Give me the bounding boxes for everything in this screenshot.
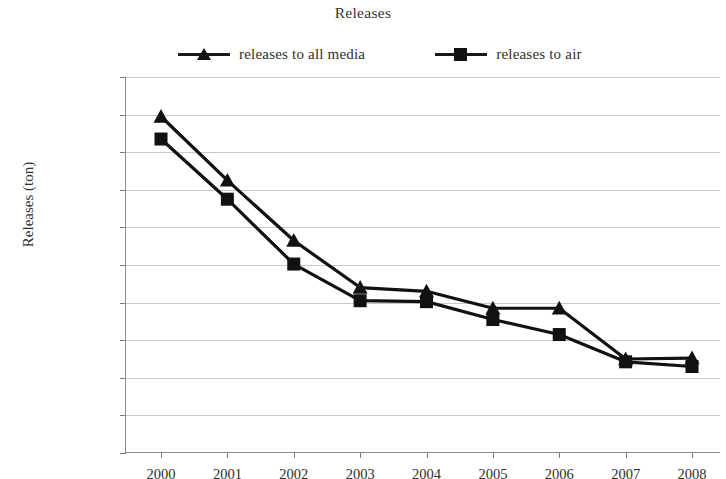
x-tick-label: 2008 [652, 466, 726, 479]
y-tick-mark [120, 453, 126, 454]
legend-item-releases-to-air: releases to air [435, 42, 581, 66]
legend-item-releases-to-all-media: releases to all media [178, 42, 365, 66]
series-releases-to-all-media [154, 109, 700, 365]
data-point-square [155, 133, 168, 146]
data-point-square [486, 313, 499, 326]
legend-label-0: releases to all media [239, 46, 365, 63]
triangle-marker-icon [197, 48, 211, 60]
data-point-square [354, 294, 367, 307]
legend-swatch-triangle [178, 45, 230, 63]
chart-legend: releases to all media releases to air [170, 42, 610, 66]
data-point-square [619, 355, 632, 368]
plot-area: 0200000040000006000000800000010000000120… [125, 77, 720, 453]
chart-title: Releases [0, 4, 726, 22]
data-point-square [553, 328, 566, 341]
series-line [161, 116, 692, 359]
legend-swatch-square [435, 45, 487, 63]
series-releases-to-air [155, 133, 699, 373]
series-line [161, 139, 692, 366]
square-marker-icon [454, 48, 467, 61]
chart-figure: Releases releases to all media releases … [0, 0, 726, 479]
data-point-square [221, 193, 234, 206]
data-point-square [686, 360, 699, 373]
data-point-triangle [154, 109, 169, 123]
y-axis-title: Releases (ton) [20, 125, 37, 285]
data-point-square [287, 258, 300, 271]
series-layer [125, 77, 720, 453]
legend-label-1: releases to air [496, 46, 581, 63]
data-point-square [420, 295, 433, 308]
